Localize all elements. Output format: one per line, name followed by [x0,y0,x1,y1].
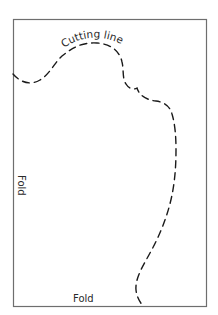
fold-label-left: Fold [16,175,27,196]
pattern-diagram: Cutting line Fold Fold [0,0,218,315]
fold-label-bottom: Fold [73,293,94,304]
paper-border [14,20,207,307]
